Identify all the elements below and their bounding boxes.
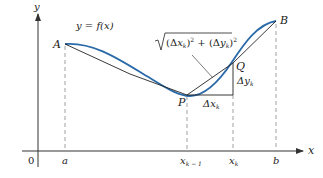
tick-label-b: b: [273, 155, 279, 166]
point-B-label: B: [279, 14, 288, 27]
formula-leader-line: [192, 55, 213, 78]
tick-label-a: a: [62, 155, 68, 166]
tick-label-xk: xk: [229, 155, 239, 167]
arc-length-formula: (Δxk)2 + (Δyk)2: [155, 33, 237, 50]
origin-label: 0: [28, 155, 34, 166]
y-axis-label: y: [33, 1, 40, 12]
point-P-label: P: [177, 96, 186, 109]
tick-label-xk-minus-1: xk − 1: [180, 155, 202, 167]
svg-text:(Δxk)2 + (Δyk)2: (Δxk)2 + (Δyk)2: [166, 36, 237, 49]
arc-length-diagram: x y 0 A B P Q y = f(x) (Δ: [0, 0, 323, 178]
delta-y-label: Δyk: [236, 75, 254, 87]
x-axis-label: x: [308, 144, 315, 157]
delta-x-label: Δxk: [202, 98, 220, 110]
point-Q-label: Q: [236, 60, 245, 73]
curve-label: y = f(x): [75, 20, 114, 31]
point-A-label: A: [52, 38, 61, 51]
